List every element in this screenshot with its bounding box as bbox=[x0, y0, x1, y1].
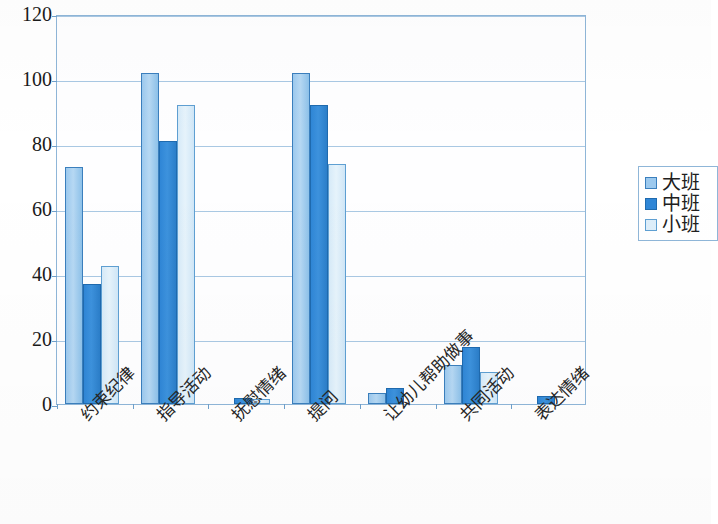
bar-大班-指导活动 bbox=[141, 73, 159, 405]
y-axis-tick-label: 120 bbox=[6, 4, 52, 24]
legend-item-小班: 小班 bbox=[645, 214, 713, 235]
legend-swatch-xiaoban-icon bbox=[645, 219, 657, 231]
bar-中班-提问 bbox=[310, 105, 328, 404]
y-tick-mark bbox=[52, 276, 57, 277]
bar-group bbox=[141, 16, 195, 404]
bar-group bbox=[292, 16, 346, 404]
legend-label: 小班 bbox=[662, 214, 700, 235]
legend-swatch-zhongban-icon bbox=[645, 198, 657, 210]
y-tick-mark bbox=[52, 211, 57, 212]
bar-小班-指导活动 bbox=[177, 105, 195, 404]
bar-group bbox=[65, 16, 119, 404]
y-axis-tick-label: 80 bbox=[6, 134, 52, 154]
legend-swatch-daban-icon bbox=[645, 177, 657, 189]
y-tick-mark bbox=[52, 16, 57, 17]
bar-group bbox=[216, 16, 270, 404]
plot-area bbox=[56, 15, 586, 405]
bar-group bbox=[368, 16, 422, 404]
y-axis-tick-label: 100 bbox=[6, 69, 52, 89]
bar-大班-让幼儿帮助做事 bbox=[368, 393, 386, 404]
y-axis-tick-label: 60 bbox=[6, 199, 52, 219]
chart-legend: 大班中班小班 bbox=[638, 166, 718, 241]
bar-group bbox=[519, 16, 573, 404]
y-axis: 020406080100120 bbox=[0, 0, 52, 420]
legend-item-大班: 大班 bbox=[645, 172, 713, 193]
bar-大班-约束纪律 bbox=[65, 167, 83, 404]
y-axis-tick-label: 20 bbox=[6, 329, 52, 349]
legend-item-中班: 中班 bbox=[645, 193, 713, 214]
bar-中班-约束纪律 bbox=[83, 284, 101, 404]
y-tick-mark bbox=[52, 341, 57, 342]
y-tick-mark bbox=[52, 81, 57, 82]
legend-label: 大班 bbox=[662, 172, 700, 193]
y-axis-tick-label: 40 bbox=[6, 264, 52, 284]
bar-大班-提问 bbox=[292, 73, 310, 405]
legend-label: 中班 bbox=[662, 193, 700, 214]
x-axis-labels: 约束纪律指导活动抚慰情绪提问让幼儿帮助做事共同活动表达情绪 bbox=[0, 405, 630, 524]
y-tick-mark bbox=[52, 146, 57, 147]
bar-小班-提问 bbox=[328, 164, 346, 405]
bar-中班-指导活动 bbox=[159, 141, 177, 404]
